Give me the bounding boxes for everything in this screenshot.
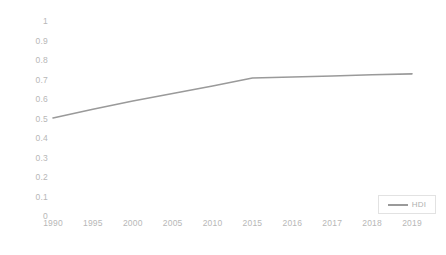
series-hdi-line <box>53 74 412 118</box>
legend-swatch-hdi <box>388 204 408 206</box>
y-axis-tick-label: 0.3 <box>4 153 48 163</box>
plot-area <box>53 21 412 216</box>
y-axis-tick-label: 0.1 <box>4 192 48 202</box>
y-axis-tick-label: 0.7 <box>4 75 48 85</box>
y-axis-tick-label: 0.9 <box>4 36 48 46</box>
legend-label-hdi: HDI <box>412 200 426 209</box>
y-axis-tick-label: 1 <box>4 16 48 26</box>
y-axis-tick-label: 0.6 <box>4 94 48 104</box>
series-hdi <box>53 21 412 216</box>
y-axis-tick-label: 0.8 <box>4 55 48 65</box>
chart-legend: HDI <box>378 195 436 214</box>
x-axis: 1990199520002005201020152016201720182019 <box>53 217 412 233</box>
y-axis-tick-label: 0.5 <box>4 114 48 124</box>
line-chart: 10.90.80.70.60.50.40.30.20.10 1990199520… <box>0 0 446 255</box>
y-axis-tick-label: 0.2 <box>4 172 48 182</box>
x-axis-tick-label: 2019 <box>389 217 435 229</box>
y-axis-tick-label: 0.4 <box>4 133 48 143</box>
